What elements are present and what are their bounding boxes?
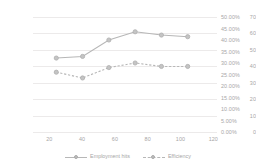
legend-label-efficiency: Efficiency — [168, 154, 191, 159]
y-right-tick-35: 35.00% — [221, 50, 240, 55]
data-point — [80, 76, 84, 80]
y-right-tick-15: 15.00% — [221, 96, 240, 101]
series-efficiency-markers — [54, 61, 190, 80]
chart-legend: Employment hits Efficiency — [0, 150, 256, 164]
plot-area — [33, 17, 217, 132]
x-tick-100: 100 — [166, 137, 196, 142]
legend-item-employment-hits[interactable]: Employment hits — [65, 154, 130, 161]
series-employment-hits-markers — [54, 30, 190, 60]
series-employment-hits-line — [56, 32, 187, 58]
y-right-tick-30: 30.00% — [221, 61, 240, 66]
data-point — [133, 30, 137, 34]
y-left-tick-60: 60 — [228, 31, 256, 36]
data-point — [159, 33, 163, 37]
series-efficiency-line — [56, 63, 187, 78]
series-svg — [33, 17, 217, 132]
x-tick-40: 40 — [67, 137, 97, 142]
y-right-tick-40: 40.00% — [221, 38, 240, 43]
legend-item-efficiency[interactable]: Efficiency — [143, 154, 191, 161]
line-chart: 70 60 50 40 30 20 10 0 50.00% 45.00% 40.… — [0, 0, 256, 168]
data-point — [80, 54, 84, 58]
legend-marker-dashed-line-icon — [143, 154, 165, 161]
y-right-tick-20: 20.00% — [221, 84, 240, 89]
x-tick-60: 60 — [100, 137, 130, 142]
legend-marker-solid-line-icon — [65, 154, 87, 161]
legend-label-employment-hits: Employment hits — [90, 154, 130, 159]
data-point — [107, 66, 111, 70]
data-point — [186, 35, 190, 39]
y-right-tick-45: 45.00% — [221, 27, 240, 32]
data-point — [107, 38, 111, 42]
y-right-tick-5: 5.00% — [221, 119, 237, 124]
y-right-tick-25: 25.00% — [221, 73, 240, 78]
y-right-tick-10: 10.00% — [221, 107, 240, 112]
data-point — [133, 61, 137, 65]
y-right-tick-50: 50.00% — [221, 15, 240, 20]
data-point — [54, 70, 58, 74]
x-tick-20: 20 — [34, 137, 64, 142]
x-tick-120: 120 — [198, 137, 228, 142]
x-tick-80: 80 — [133, 137, 163, 142]
data-point — [186, 64, 190, 68]
data-point — [159, 64, 163, 68]
y-right-tick-0: 0.00% — [221, 130, 237, 135]
data-point — [54, 56, 58, 60]
gridline-0 — [33, 132, 217, 133]
